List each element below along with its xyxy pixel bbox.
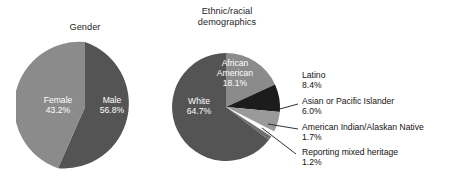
leader-line-mixed-heritage — [262, 128, 296, 154]
demographics-figure: Gender Female 43.2% Male 56.8% Ethnic/ra… — [0, 0, 460, 189]
ethnic-callout-label-american-indian: American Indian/Alaskan Native 1.7% — [302, 122, 424, 142]
ethnic-callout-label-asian-pacific-islander: Asian or Pacific Islander 6.0% — [302, 96, 394, 116]
leader-line-asian-pacific-islander — [276, 104, 298, 110]
ethnic-callout-label-latino: Latino 8.4% — [302, 70, 325, 90]
leader-line-american-indian — [268, 124, 298, 129]
ethnic-callout-label-mixed-heritage: Reporting mixed heritage 1.2% — [302, 147, 398, 167]
